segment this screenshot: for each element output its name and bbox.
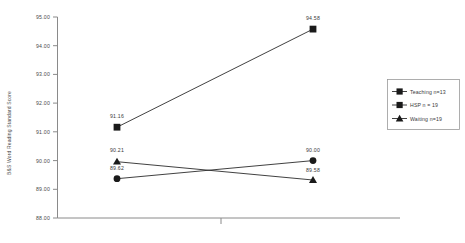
legend-label-teaching: Teaching n=13 — [410, 89, 446, 95]
y-tick-label: 92.00 — [36, 100, 50, 106]
series-hsp-point-label: 89.62 — [110, 165, 124, 171]
legend-item-waiting[interactable]: Waiting n=19 — [392, 115, 442, 122]
y-tick-label: 93.00 — [36, 71, 50, 77]
chart-container: B&S Word Reading Standard Score 95.00 94… — [0, 0, 465, 243]
legend: Teaching n=13 HSP n = 19 Waiting n=19 — [388, 80, 460, 130]
legend-marker-square — [397, 102, 403, 108]
y-tick-label: 90.00 — [36, 158, 50, 164]
legend-label-hsp: HSP n = 19 — [410, 102, 438, 108]
series-teaching: 91.16 94.58 — [110, 15, 320, 131]
series-teaching-marker — [114, 124, 121, 131]
series-waiting-point-label: 89.58 — [306, 167, 320, 173]
series-hsp-marker — [114, 175, 121, 182]
series-waiting-point-label: 90.21 — [110, 147, 124, 153]
series-teaching-line — [117, 29, 313, 127]
legend-marker-square — [397, 88, 403, 94]
line-chart: B&S Word Reading Standard Score 95.00 94… — [0, 0, 465, 243]
series-hsp-marker — [310, 157, 317, 164]
series-teaching-point-label: 91.16 — [110, 113, 124, 119]
legend-item-hsp[interactable]: HSP n = 19 — [392, 102, 438, 108]
y-tick-label: 89.00 — [36, 186, 50, 192]
series-hsp: 89.62 90.00 — [110, 147, 320, 182]
y-tick-label: 91.00 — [36, 129, 50, 135]
y-tick-label: 88.00 — [36, 215, 50, 221]
series-hsp-line — [117, 161, 313, 179]
legend-label-waiting: Waiting n=19 — [410, 116, 442, 122]
y-axis-title: B&S Word Reading Standard Score — [6, 91, 12, 175]
series-waiting-marker — [113, 158, 121, 165]
series-teaching-marker — [310, 26, 317, 33]
y-axis-ticks: 95.00 94.00 93.00 92.00 91.00 90.00 89.0… — [36, 14, 57, 221]
series-teaching-point-label: 94.58 — [306, 15, 320, 21]
series-waiting: 90.21 89.58 — [110, 147, 320, 183]
series-hsp-point-label: 90.00 — [306, 147, 320, 153]
series-waiting-line — [117, 162, 313, 180]
legend-item-teaching[interactable]: Teaching n=13 — [392, 88, 446, 94]
y-tick-label: 94.00 — [36, 43, 50, 49]
y-tick-label: 95.00 — [36, 14, 50, 20]
